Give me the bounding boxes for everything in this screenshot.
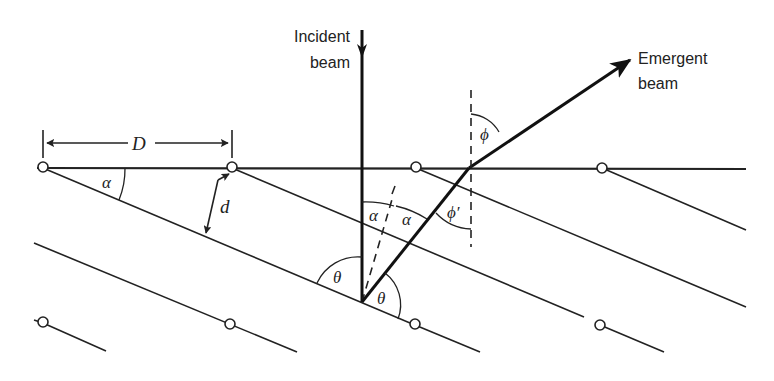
label-alpha-right: α	[402, 210, 412, 229]
crystal-surface	[37, 168, 746, 169]
label-phi: ϕ	[480, 125, 489, 144]
emergent-label-2: beam	[638, 75, 678, 92]
lattice-plane	[43, 168, 410, 323]
atom	[38, 162, 48, 172]
label-phi-prime: ϕ′	[447, 203, 460, 222]
lattice-plane	[600, 325, 664, 352]
theta-right-arc	[385, 273, 401, 319]
atom	[595, 320, 605, 330]
label-theta-left: θ	[333, 268, 341, 287]
atom	[225, 319, 235, 329]
lattice-planes	[34, 168, 746, 352]
alpha-left-arc	[362, 202, 394, 206]
incident-label-2: beam	[310, 54, 350, 71]
spacing-D-dimension: D	[43, 130, 232, 158]
atom	[227, 162, 237, 172]
label-theta-right: θ	[377, 289, 385, 308]
label-d: d	[220, 196, 230, 217]
incident-label-1: Incident	[294, 28, 351, 45]
atom	[597, 163, 607, 173]
diffraction-diagram: D d α Incident beam Emergent beam ϕ ϕ′ α…	[0, 0, 774, 381]
emergent-label-1: Emergent	[638, 50, 708, 67]
label-D: D	[131, 133, 146, 154]
label-alpha-surface: α	[102, 173, 112, 192]
lattice-plane	[416, 168, 746, 307]
alpha-surface-arc	[119, 168, 125, 200]
label-alpha-left: α	[369, 206, 379, 225]
spacing-d-dimension: d	[206, 174, 230, 233]
alpha-right-arc	[396, 206, 427, 219]
atom	[411, 162, 421, 172]
lattice-plane	[602, 168, 746, 230]
emergent-beam	[469, 60, 630, 168]
atom	[38, 317, 48, 327]
atoms-bottom-row	[38, 317, 605, 330]
lattice-plane	[415, 325, 480, 352]
lattice-plane	[43, 323, 106, 351]
atom	[410, 319, 420, 329]
refracted-beam	[362, 168, 469, 302]
